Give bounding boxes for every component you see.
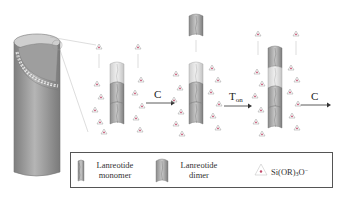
stage-1-column xyxy=(110,62,124,124)
lanreotide-dimer-icon xyxy=(155,158,169,184)
legend: Lanreotidemonomer Lanreotidedimer Si(OR)… xyxy=(70,152,333,188)
legend-monomer-label: Lanreotidemonomer xyxy=(89,160,141,180)
incoming-dimer xyxy=(189,14,203,36)
lanreotide-monomer-icon xyxy=(77,159,85,183)
stage-3-column xyxy=(268,46,282,128)
arrow-label-t-on: Ton xyxy=(229,91,243,104)
legend-silicate-label: Si(OR)3O− xyxy=(271,165,331,179)
arrow-label-c-2: C xyxy=(311,91,318,102)
stage-2-column xyxy=(189,62,203,124)
legend-dimer-label: Lanreotidedimer xyxy=(173,160,225,180)
arrow-label-c-1: C xyxy=(154,89,161,100)
silicate-icon xyxy=(254,163,268,177)
